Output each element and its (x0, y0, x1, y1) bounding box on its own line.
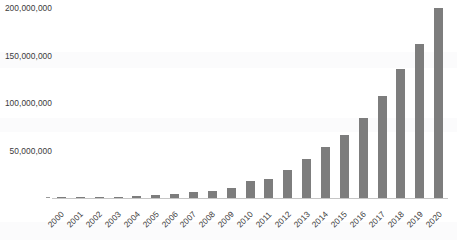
x-axis-tick-label: 2005 (140, 209, 160, 229)
x-axis-tick-label: 2016 (348, 209, 368, 229)
x-axis-tick-label: 2003 (103, 209, 123, 229)
x-axis-tick-label: 2002 (84, 209, 104, 229)
x-axis-tick-label: 2017 (367, 209, 387, 229)
bar (283, 170, 292, 198)
bar (114, 197, 123, 198)
x-axis-tick-label: 2014 (310, 209, 330, 229)
bar (76, 197, 85, 198)
bar (208, 191, 217, 198)
x-axis-tick-label: 2004 (121, 209, 141, 229)
x-axis-tick-label: 2013 (291, 209, 311, 229)
bar (57, 197, 66, 198)
bar (170, 194, 179, 198)
y-axis-tick-label: 50,000,000 (10, 146, 52, 156)
chart-title (255, 0, 455, 8)
x-axis-tick-label: 2006 (159, 209, 179, 229)
x-axis-tick-label: 2008 (197, 209, 217, 229)
x-axis-tick-label: 2012 (272, 209, 292, 229)
x-axis-tick-label: 2011 (253, 209, 273, 229)
x-axis-tick-label: 2019 (404, 209, 424, 229)
x-axis-tick-label: 2010 (235, 209, 255, 229)
x-axis-tick-label: 2001 (65, 209, 85, 229)
x-axis-tick-label: 2018 (385, 209, 405, 229)
x-axis-tick-label: 2007 (178, 209, 198, 229)
bar-series (52, 8, 448, 198)
bar (264, 179, 273, 198)
bar (359, 118, 368, 198)
y-axis-tick-label: 150,000,000 (5, 51, 52, 61)
y-axis-tick-label: 200,000,000 (5, 3, 52, 13)
bar (340, 135, 349, 198)
bar (415, 44, 424, 198)
bar (378, 96, 387, 198)
bar-chart-figure: 50,000,000100,000,000150,000,000200,000,… (0, 0, 457, 251)
bar (151, 195, 160, 198)
x-axis-tick-label: 2020 (423, 209, 443, 229)
y-axis-origin-tick (46, 197, 50, 198)
bar (227, 188, 236, 198)
bar (189, 192, 198, 198)
x-axis-line (52, 198, 448, 199)
x-axis-tick-label: 2015 (329, 209, 349, 229)
bar (132, 196, 141, 198)
y-axis-tick-label: 100,000,000 (5, 98, 52, 108)
x-axis-tick-label: 2009 (216, 209, 236, 229)
y-axis: 50,000,000100,000,000150,000,000200,000,… (0, 0, 60, 251)
bar (95, 197, 104, 198)
bar (321, 147, 330, 198)
bar (396, 69, 405, 198)
bar (302, 159, 311, 198)
bar (434, 8, 443, 198)
bar (246, 181, 255, 198)
x-axis: 2000200120022003200420052006200720082009… (52, 200, 452, 251)
